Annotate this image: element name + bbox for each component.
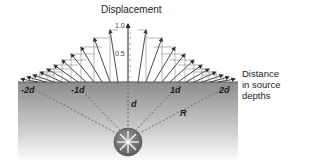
depth-label: d xyxy=(131,99,137,109)
displacement-axis xyxy=(128,24,131,82)
axis-tick-1-0: 1.0 xyxy=(115,22,125,29)
surface-label-minus-1d: -1d xyxy=(71,85,85,95)
surface-label-2d: 2d xyxy=(219,85,230,95)
surface-label-1d: 1d xyxy=(170,85,181,95)
radius-label: R xyxy=(180,108,187,118)
surface-label-minus-2d: -2d xyxy=(21,85,35,95)
side-label-line3: depths xyxy=(242,90,271,101)
axis-tick-0-5: 0.5 xyxy=(115,50,125,57)
side-label-line1: Distance xyxy=(242,68,279,79)
side-label-line2: in source xyxy=(242,79,281,90)
explosion-source-icon xyxy=(114,128,142,156)
diagram-title: Displacement xyxy=(101,4,162,15)
